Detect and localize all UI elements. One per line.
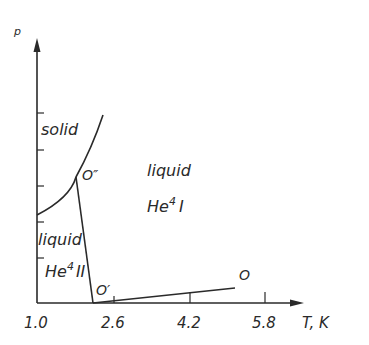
y-axis-arrow-icon	[34, 38, 41, 52]
point-o-double-prime-label: O″	[82, 167, 99, 183]
region-liquid-he2-formula: He4II	[45, 260, 86, 281]
x-tick-label: 5.8	[252, 314, 276, 332]
x-tick-label: 1.0	[24, 314, 48, 332]
point-o-label: O	[239, 267, 250, 283]
region-liquid-he1-label: liquid	[147, 161, 192, 180]
x-ticks	[114, 292, 265, 303]
y-axis-label: p	[13, 25, 21, 38]
x-axis-label: T, K	[302, 314, 330, 332]
x-tick-label: 4.2	[177, 314, 201, 332]
region-solid-label: solid	[41, 120, 79, 139]
x-tick-label: 2.6	[101, 314, 125, 332]
x-axis-arrow-icon	[290, 300, 304, 307]
region-liquid-he2-label: liquid	[38, 230, 83, 249]
transition-line	[93, 288, 235, 303]
region-liquid-he1-formula: He4I	[147, 195, 184, 216]
point-o-prime-label: O′	[96, 282, 111, 298]
phase-diagram: p T, K 1.0 2.6 4.2 5.8 solid liquid He4I…	[0, 0, 369, 345]
